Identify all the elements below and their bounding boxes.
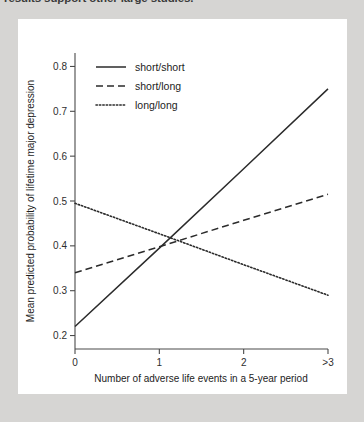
legend-label: short/long [135,80,181,92]
legend-label: long/long [135,99,178,111]
y-tick-group: 0.20.30.40.50.60.70.8 [53,61,75,341]
x-tick-label: 1 [157,357,163,368]
series-line-short-short [75,89,328,327]
x-tick-label: 0 [72,357,78,368]
y-tick-label: 0.3 [53,285,67,296]
figure-root: results support other large studies. 0.2… [0,0,364,422]
cut-caption-strip: results support other large studies. [0,0,364,9]
y-tick-label: 0.4 [53,240,67,251]
y-tick-label: 0.5 [53,196,67,207]
y-axis-title: Mean predicted probability of lifetime m… [25,80,36,322]
x-axis-title: Number of adverse life events in a 5-yea… [94,373,307,384]
x-tick-group: 012>3 [72,349,334,368]
x-tick-label: >3 [322,357,334,368]
y-tick-label: 0.6 [53,151,67,162]
legend-label: short/short [135,61,185,73]
y-tick-label: 0.8 [53,61,67,72]
chart-panel: 0.20.30.40.50.60.70.8 012>3 short/shorts… [18,19,347,394]
y-tick-label: 0.7 [53,106,67,117]
series-group [75,89,328,327]
series-line-long-long [75,203,328,295]
y-tick-label: 0.2 [53,330,67,341]
chart-legend: short/shortshort/longlong/long [96,61,185,111]
series-line-short-long [75,194,328,272]
cut-caption-text: results support other large studies. [4,0,193,4]
x-tick-label: 2 [241,357,247,368]
line-chart: 0.20.30.40.50.60.70.8 012>3 short/shorts… [18,19,347,394]
